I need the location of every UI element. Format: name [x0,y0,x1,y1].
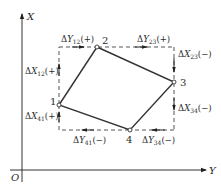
point-3-marker [172,80,176,84]
point-4-label: 4 [126,134,132,145]
point-4-marker [128,128,132,132]
point-3-label: 3 [180,77,186,88]
x-axis-label: X [26,11,35,22]
label-dx34: ΔX34(−) [178,103,212,114]
y-axis-label: Y [209,165,217,176]
traverse-polygon [59,47,174,130]
point-1-marker [57,103,61,107]
label-dy23: ΔY23(+) [137,34,170,45]
origin-label: O [11,172,19,183]
label-dx12: ΔX12(+) [25,66,59,77]
label-dy41: ΔY41(−) [73,135,106,146]
point-1-label: 1 [50,96,56,107]
coordinate-increment-diagram: X Y O 1 2 3 4 ΔX12(+) ΔY12(+) [0,0,221,194]
label-dx41: ΔX41(+) [25,111,59,122]
label-dy34: ΔY34(−) [142,135,175,146]
label-dy12: ΔY12(+) [61,34,94,45]
point-2-label: 2 [102,35,108,46]
traverse-points [57,45,176,132]
increment-arrows [59,47,174,130]
label-dx23: ΔX23(−) [178,49,212,60]
point-2-marker [95,45,99,49]
increment-dashed-lines [59,47,174,130]
